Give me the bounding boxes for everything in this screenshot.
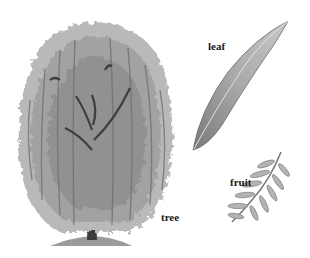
tree-drawing: [19, 22, 173, 246]
willow-illustration: [0, 0, 310, 258]
tree-label: tree: [161, 212, 179, 223]
leaf-label: leaf: [208, 41, 225, 52]
fruit-label: fruit: [230, 177, 251, 188]
